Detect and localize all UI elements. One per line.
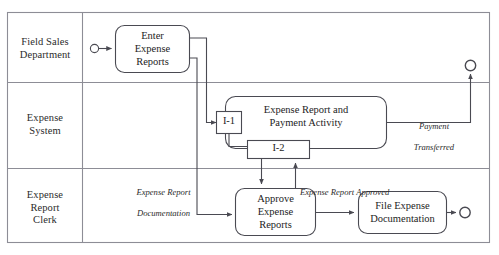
end-node-field-sales [465, 60, 475, 70]
start-node-field-sales [90, 44, 111, 52]
flow-label-line: Expense Report Approved [300, 187, 410, 198]
lane-label-line: Field Sales [9, 36, 81, 49]
activity-label-expense-report-and-payment-activity: Expense Report and Payment Activity [226, 104, 386, 130]
lane-label-expense-report-clerk: Expense Report Clerk [9, 189, 81, 227]
lane-label-line: Clerk [9, 214, 81, 227]
activity-label-enter-expense-reports: Enter Expense Reports [115, 30, 190, 68]
flow-label-line: Documentation [131, 208, 196, 219]
activity-label-line: Reports [115, 56, 190, 69]
activity-label-line: Reports [236, 219, 315, 232]
flow-label-line: Payment [404, 121, 464, 132]
activity-label-line: Payment Activity [226, 117, 386, 130]
flow-label-line: Transferred [404, 142, 464, 153]
lane-label-line: Department [9, 49, 81, 62]
activity-diagram-canvas: Field Sales Department Expense System Ex… [0, 0, 499, 255]
activity-label-line: Enter [115, 30, 190, 43]
end-node-clerk [447, 207, 471, 217]
lane-label-line: System [9, 125, 81, 138]
flow-label-expense-report-approved: Expense Report Approved [300, 176, 410, 208]
lane-label-line: Report [9, 202, 81, 215]
flow-label-payment-transferred: Payment Transferred [404, 110, 464, 163]
activity-label-line: Expense [115, 43, 190, 56]
flow-label-expense-report-documentation: Expense Report Documentation [131, 176, 196, 229]
activity-label-line: Documentation [359, 213, 446, 226]
transition-enter-to-i1 [190, 38, 217, 123]
sync-bar-label-i1: I-1 [217, 115, 241, 126]
lane-label-line: Expense [9, 112, 81, 125]
lane-label-field-sales-department: Field Sales Department [9, 36, 81, 61]
lane-label-expense-system: Expense System [9, 112, 81, 137]
lane-label-line: Expense [9, 189, 81, 202]
activity-label-line: Expense Report and [226, 104, 386, 117]
sync-bar-label-i2: I-2 [248, 142, 309, 153]
flow-label-line: Expense Report [131, 187, 196, 198]
